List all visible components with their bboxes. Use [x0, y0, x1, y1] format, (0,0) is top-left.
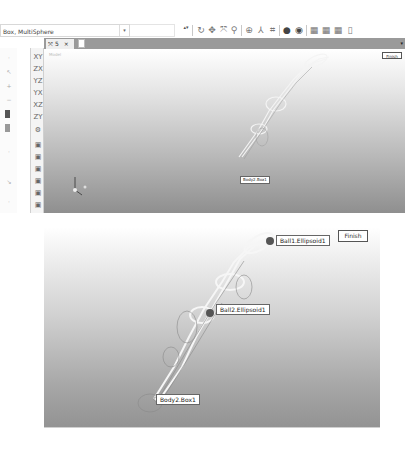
tab-icon: ⤧ — [48, 40, 55, 47]
arm-model-wireframe — [44, 49, 405, 213]
main-toolbar: Box, MultiSphere ▾ ▴▾ ↻ ✥ ⤧ ⚲ ⊕ ⅄ ⌗ ● ◉ … — [0, 24, 405, 38]
cube-right-icon[interactable]: ▣ — [33, 176, 43, 186]
ball1-ellipsoid1-label[interactable]: Ball1.Ellipsoid1 — [276, 235, 330, 246]
item-icon[interactable]: ↘ — [5, 178, 13, 186]
item-icon[interactable]: · — [5, 148, 13, 156]
toolbar-separator — [241, 25, 242, 36]
tab-strip: ⤧ 5 × ▾ — [44, 38, 405, 49]
view-zy-icon[interactable]: ZY — [33, 112, 43, 122]
cube-left-icon[interactable]: ▣ — [33, 164, 43, 174]
tab-menu-icon[interactable]: ▾ — [400, 38, 403, 49]
tab-model-5[interactable]: ⤧ 5 × — [46, 39, 74, 49]
cube-bottom-icon[interactable]: ▣ — [33, 200, 43, 210]
ball1-joint — [266, 237, 274, 245]
cube-top-icon[interactable]: ▣ — [33, 188, 43, 198]
cube-front-icon[interactable]: ▣ — [33, 140, 43, 150]
toolbar-separator — [192, 25, 193, 36]
view-front-icon[interactable]: ▦ — [309, 25, 319, 35]
highlight-icon[interactable] — [5, 110, 10, 118]
more-icon[interactable]: ▯ — [345, 25, 355, 35]
arm-model-wireframe-detail — [44, 227, 380, 427]
3d-viewport-main[interactable]: Model Finish Body2.Box1 — [44, 49, 405, 213]
axis-icon[interactable]: ⅄ — [256, 25, 266, 35]
selection-combo-value: Box, MultiSphere — [3, 28, 54, 35]
chevron-down-icon[interactable]: ▾ — [119, 25, 129, 36]
view-xy-icon[interactable]: XY — [33, 52, 43, 62]
cube-back-icon[interactable]: ▣ — [33, 152, 43, 162]
axis-triad — [75, 177, 82, 195]
plus-icon[interactable]: + — [5, 82, 13, 90]
pin-icon[interactable]: · — [5, 54, 13, 62]
view-toolbar: XY ZX YZ YX XZ ZY ⚙ ▣ ▣ ▣ ▣ ▣ ▣ — [30, 48, 44, 213]
tab-label: 5 — [55, 40, 59, 47]
ball2-ellipsoid1-label[interactable]: Ball2.Ellipsoid1 — [216, 304, 270, 315]
3d-viewport-detail[interactable]: Finish Ball1.Ellipsoid1 Ball2.Ellipsoid1… — [44, 227, 380, 428]
view-yx-icon[interactable]: YX — [33, 88, 43, 98]
view-xz-icon[interactable]: XZ — [33, 100, 43, 110]
close-icon[interactable]: × — [64, 40, 69, 47]
view-zx-icon[interactable]: ZX — [33, 64, 43, 74]
item-icon[interactable]: · — [5, 198, 13, 206]
pan-icon[interactable]: ✥ — [207, 25, 217, 35]
eye-icon[interactable]: ◉ — [294, 25, 304, 35]
sphere-icon[interactable]: ● — [282, 25, 292, 35]
toolbar-separator — [306, 25, 307, 36]
fit-icon[interactable]: ⤧ — [218, 25, 228, 35]
zoom-icon[interactable]: ⚲ — [229, 25, 239, 35]
secondary-combo[interactable] — [130, 24, 175, 37]
view-yz-icon[interactable]: YZ — [33, 76, 43, 86]
rotate-icon[interactable]: ↻ — [196, 25, 206, 35]
cog-icon[interactable]: ⚙ — [33, 125, 43, 135]
spin-control[interactable]: ▴▾ — [183, 25, 189, 36]
minus-icon[interactable]: − — [5, 96, 13, 104]
select-icon[interactable]: ⌗ — [267, 25, 277, 35]
new-tab-icon[interactable] — [78, 39, 85, 48]
arrow-icon[interactable]: ↖ — [5, 68, 13, 76]
body2-box1-label[interactable]: Body2.Box1 — [240, 176, 270, 184]
ball2-joint — [206, 309, 214, 317]
view-top-icon[interactable]: ▦ — [321, 25, 331, 35]
snap-icon[interactable]: ⊕ — [244, 25, 254, 35]
body2-box1-label[interactable]: Body2.Box1 — [156, 394, 200, 405]
toolbar-separator — [279, 25, 280, 36]
highlight-icon[interactable] — [5, 124, 10, 132]
view-side-icon[interactable]: ▦ — [333, 25, 343, 35]
left-mini-toolbar: · ↖ + − · ↘ · — [0, 48, 17, 213]
selection-combo[interactable]: Box, MultiSphere ▾ — [0, 24, 130, 37]
